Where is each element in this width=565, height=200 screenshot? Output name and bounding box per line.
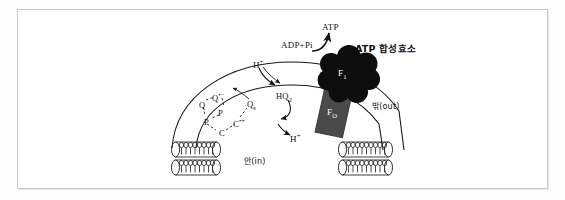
label-outside: 밖(out)	[372, 103, 400, 111]
label-f1: F1	[338, 69, 347, 81]
figure-root: ATP ADP+Pi ATP 합성효소 F1 FO H+ H+ HQ2 Qs Q…	[0, 0, 565, 200]
label-f0: FO	[327, 108, 337, 120]
lipid-bilayer-right	[339, 142, 393, 175]
label-p-upper: P	[218, 109, 223, 118]
label-proton-bottom: H+	[290, 133, 301, 144]
label-atp: ATP	[322, 23, 339, 32]
atp-synthesis-arrow	[312, 33, 329, 51]
label-proton-top-letter: H	[253, 60, 260, 70]
label-adp-pi: ADP+Pi	[281, 41, 313, 50]
label-f0-subscript: O	[332, 112, 337, 119]
label-proton-top: H+	[253, 59, 264, 70]
lipid-bilayer-left	[172, 142, 221, 175]
label-q-radical-charge: •−	[218, 91, 224, 98]
label-q: Q	[199, 101, 205, 110]
label-atp-synthase: ATP 합성효소	[355, 44, 416, 54]
label-c: C	[219, 129, 225, 138]
label-c-radical: C•+	[233, 118, 245, 128]
label-f1-subscript: 1	[343, 73, 347, 80]
label-proton-bottom-charge: +	[297, 132, 301, 139]
label-c-radical-charge: •+	[239, 117, 245, 124]
label-inside: 안(in)	[244, 158, 266, 166]
label-proton-bottom-letter: H	[290, 134, 297, 144]
label-qs-subscript: s	[253, 104, 256, 111]
label-q-radical: Q•−	[212, 92, 225, 102]
label-hq2-letters: HQ	[276, 91, 289, 101]
label-hq2-subscript: 2	[289, 96, 292, 103]
label-qs: Qs	[247, 100, 256, 111]
label-p-lower: P	[204, 118, 209, 127]
label-proton-top-charge: +	[260, 58, 264, 65]
label-hq2: HQ2	[276, 92, 292, 103]
